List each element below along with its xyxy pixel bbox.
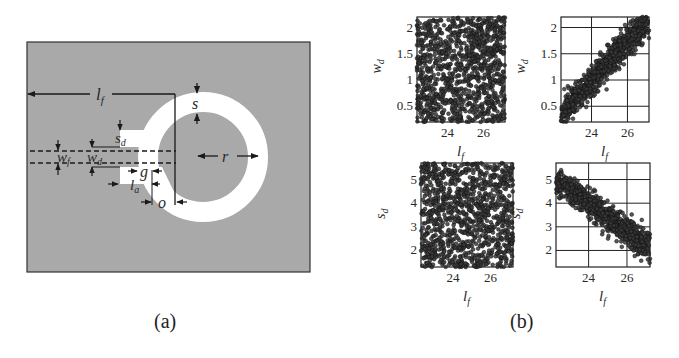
y-tick-label: 2 (551, 20, 558, 35)
x-axis-label: lf (599, 288, 607, 307)
y-tick-label: 4 (546, 195, 553, 210)
x-tick-label: 26 (621, 125, 635, 140)
y-tick-label: 5 (411, 172, 418, 187)
data-points (415, 15, 507, 124)
caption-b: (b) (510, 310, 533, 333)
x-tick-label: 24 (585, 125, 599, 140)
y-tick-label: 1 (407, 72, 414, 87)
scatter-plot-bottom-left: 23452426lfsd (373, 161, 515, 307)
y-tick-label: 2 (407, 20, 414, 35)
x-axis-label: lf (463, 288, 471, 307)
x-tick-label: 26 (477, 125, 491, 140)
y-tick-label: 0.5 (397, 98, 413, 113)
x-tick-label: 24 (441, 125, 455, 140)
x-tick-label: 24 (446, 270, 460, 285)
x-axis-label: lf (457, 143, 465, 162)
y-tick-label: 1.5 (397, 46, 413, 61)
y-axis-label: wd (513, 58, 530, 73)
scatter-plot-top-right: 0.511.522426lfwd (513, 15, 651, 162)
y-tick-label: 2 (546, 242, 553, 257)
y-tick-label: 2 (411, 242, 418, 257)
y-tick-label: 1 (551, 72, 558, 87)
y-tick-label: 1.5 (541, 46, 557, 61)
x-tick-label: 26 (620, 270, 634, 285)
x-axis-label: lf (601, 143, 609, 162)
y-axis-label: sd (373, 208, 390, 219)
y-tick-label: 3 (411, 219, 418, 234)
scatter-plot-bottom-right: 23452426lfsd (508, 163, 652, 307)
y-tick-label: 5 (546, 172, 553, 187)
x-tick-label: 24 (582, 270, 596, 285)
scatter-plot-top-left: 0.511.522426lfwd (369, 15, 507, 162)
y-tick-label: 3 (546, 219, 553, 234)
y-axis-label: wd (369, 58, 386, 73)
scatter-matrix: 0.511.522426lfwd0.511.522426lfwd23452426… (0, 0, 679, 358)
y-tick-label: 4 (411, 195, 418, 210)
y-tick-label: 0.5 (541, 98, 557, 113)
x-tick-label: 26 (484, 270, 498, 285)
